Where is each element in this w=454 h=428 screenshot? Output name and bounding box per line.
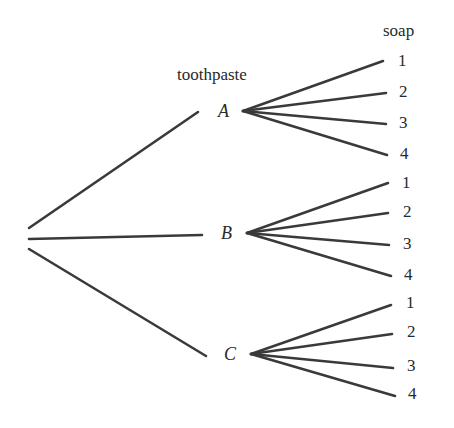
edge-b-2 xyxy=(247,213,388,233)
leaf-c-2: 2 xyxy=(407,323,416,340)
leaf-c-3: 3 xyxy=(407,357,416,374)
edge-root-b xyxy=(29,235,202,239)
leaf-a-3: 3 xyxy=(399,114,408,131)
leaf-b-1: 1 xyxy=(402,174,411,191)
leaf-b-4: 4 xyxy=(404,266,413,283)
edge-root-c xyxy=(29,249,206,356)
node-c: C xyxy=(224,345,236,363)
leaf-a-4: 4 xyxy=(400,145,409,162)
toothpaste-header: toothpaste xyxy=(177,66,247,83)
leaf-a-1: 1 xyxy=(398,52,407,69)
soap-header: soap xyxy=(383,22,414,39)
leaf-c-4: 4 xyxy=(408,385,417,402)
leaf-b-2: 2 xyxy=(403,203,412,220)
edge-c-1 xyxy=(251,305,391,354)
edge-a-1 xyxy=(243,61,383,111)
edge-c-2 xyxy=(251,334,392,354)
edge-root-a xyxy=(29,112,198,228)
leaf-c-1: 1 xyxy=(406,294,415,311)
leaf-b-3: 3 xyxy=(403,235,412,252)
node-b: B xyxy=(221,224,232,242)
leaf-a-2: 2 xyxy=(399,83,408,100)
node-a: A xyxy=(218,102,229,120)
edge-b-1 xyxy=(247,183,388,233)
